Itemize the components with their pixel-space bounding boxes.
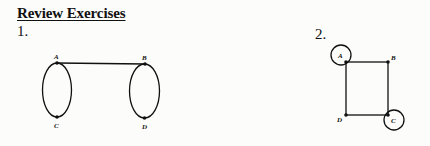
edge-a-b (57, 63, 145, 64)
edges-a-c-double (43, 63, 72, 117)
graph-1-vertices (55, 61, 147, 120)
label-a: A (337, 52, 343, 60)
vertex-d (344, 113, 348, 117)
vertex-a (55, 61, 59, 65)
label-d: D (336, 116, 342, 124)
edges-b-d-double (130, 64, 160, 118)
vertex-a (344, 60, 348, 64)
vertex-b (386, 60, 390, 64)
edges-square (346, 62, 388, 115)
vertex-b (143, 62, 147, 66)
label-c: C (391, 117, 396, 125)
graph-1 (43, 63, 160, 118)
label-c: C (54, 122, 59, 130)
vertex-c (55, 115, 59, 119)
graph-figures: A B C D A B C D (0, 0, 430, 146)
graph-2-vertices (344, 60, 390, 117)
vertex-c (386, 113, 390, 117)
label-b: B (390, 54, 396, 62)
label-a: A (53, 53, 59, 61)
label-d: D (141, 123, 147, 131)
vertex-d (143, 116, 147, 120)
label-b: B (141, 54, 147, 62)
